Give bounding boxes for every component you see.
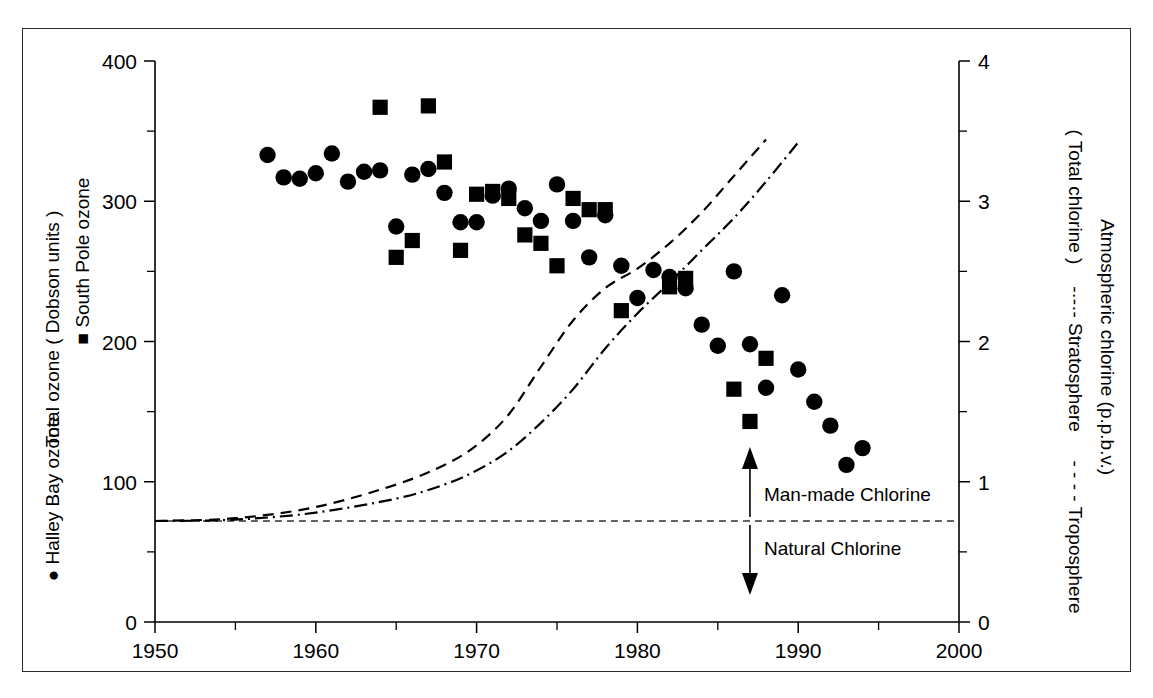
halley-bay-ozone-point xyxy=(340,173,356,189)
left-axis-title: Total ozone ( Dobson units ) xyxy=(42,211,63,448)
halley-bay-ozone-point xyxy=(324,145,340,161)
south-pole-ozone-point xyxy=(405,233,420,248)
south-pole-ozone-point xyxy=(533,236,548,251)
right-axis-title: Atmospheric chlorine (p.p.b.v.) xyxy=(1097,219,1118,475)
halley-bay-ozone-point xyxy=(372,162,388,178)
halley-bay-ozone-point xyxy=(613,258,629,274)
halley-bay-ozone-point xyxy=(758,380,774,396)
halley-bay-ozone-point xyxy=(275,169,291,185)
south-pole-ozone-point xyxy=(678,271,693,286)
natural-chlorine-label: Natural Chlorine xyxy=(764,538,901,559)
figure-frame: 0100200300400012341950196019701980199020… xyxy=(22,28,1131,672)
troposphere-legend: - - - - Troposphere xyxy=(1065,460,1086,613)
south-pole-ozone-point xyxy=(373,100,388,115)
x-axis-tick-label: 2000 xyxy=(936,639,983,662)
halley-bay-ozone-point xyxy=(694,316,710,332)
halley-bay-ozone-point xyxy=(549,176,565,192)
halley-bay-ozone-point xyxy=(726,263,742,279)
halley-bay-ozone-point xyxy=(806,394,822,410)
south-pole-ozone-point xyxy=(389,250,404,265)
man-made-arrow-head xyxy=(742,447,758,469)
halley-bay-legend: ● Halley Bay ozone xyxy=(42,417,63,582)
south-pole-ozone-point xyxy=(742,414,757,429)
halley-bay-ozone-point xyxy=(452,214,468,230)
halley-bay-ozone-point xyxy=(790,361,806,377)
right-axis-tick-label: 4 xyxy=(978,50,990,73)
south-pole-ozone-point xyxy=(565,191,580,206)
south-pole-ozone-point xyxy=(582,202,597,217)
left-axis-tick-label: 0 xyxy=(125,611,137,634)
right-axis-tick-label: 3 xyxy=(978,190,990,213)
total-chlorine-sublabel: ( Total chlorine ) xyxy=(1065,130,1086,265)
troposphere-curve xyxy=(155,140,766,521)
halley-bay-ozone-point xyxy=(468,214,484,230)
x-axis-tick-label: 1960 xyxy=(292,639,339,662)
south-pole-ozone-point xyxy=(469,187,484,202)
halley-bay-ozone-point xyxy=(565,213,581,229)
halley-bay-ozone-point xyxy=(822,417,838,433)
left-axis-tick-label: 300 xyxy=(102,190,137,213)
x-axis-tick-label: 1990 xyxy=(775,639,822,662)
halley-bay-ozone-point xyxy=(420,161,436,177)
south-pole-ozone-point xyxy=(549,258,564,273)
south-pole-ozone-point xyxy=(437,154,452,169)
south-pole-ozone-point xyxy=(421,98,436,113)
south-pole-ozone-point xyxy=(662,279,677,294)
stratosphere-legend: -·-·- Stratosphere xyxy=(1065,286,1086,432)
south-pole-ozone-point xyxy=(485,184,500,199)
halley-bay-ozone-point xyxy=(404,166,420,182)
x-axis-tick-label: 1950 xyxy=(132,639,179,662)
x-axis-tick-label: 1970 xyxy=(453,639,500,662)
right-axis-tick-label: 1 xyxy=(978,471,990,494)
halley-bay-ozone-point xyxy=(710,338,726,354)
halley-bay-ozone-point xyxy=(854,440,870,456)
left-axis-tick-label: 100 xyxy=(102,471,137,494)
halley-bay-ozone-point xyxy=(629,290,645,306)
south-pole-ozone-point xyxy=(501,191,516,206)
man-made-chlorine-label: Man-made Chlorine xyxy=(764,484,931,505)
x-axis-tick-label: 1980 xyxy=(614,639,661,662)
south-pole-ozone-point xyxy=(453,243,468,258)
right-axis-tick-label: 0 xyxy=(978,611,990,634)
left-axis-tick-label: 200 xyxy=(102,331,137,354)
south-pole-ozone-point xyxy=(726,382,741,397)
south-pole-ozone-point xyxy=(598,202,613,217)
halley-bay-ozone-point xyxy=(388,218,404,234)
halley-bay-ozone-point xyxy=(517,200,533,216)
halley-bay-ozone-point xyxy=(292,171,308,187)
halley-bay-ozone-point xyxy=(742,336,758,352)
south-pole-legend: ■ South Pole ozone xyxy=(72,178,93,345)
halley-bay-ozone-point xyxy=(356,164,372,180)
south-pole-ozone-point xyxy=(614,303,629,318)
halley-bay-ozone-point xyxy=(774,287,790,303)
halley-bay-ozone-point xyxy=(533,213,549,229)
natural-arrow-head xyxy=(742,573,758,595)
right-axis-tick-label: 2 xyxy=(978,331,990,354)
halley-bay-ozone-point xyxy=(645,262,661,278)
left-axis-tick-label: 400 xyxy=(102,50,137,73)
halley-bay-ozone-point xyxy=(308,165,324,181)
ozone-chlorine-chart: 0100200300400012341950196019701980199020… xyxy=(23,29,1129,670)
halley-bay-ozone-point xyxy=(436,185,452,201)
south-pole-ozone-point xyxy=(517,227,532,242)
halley-bay-ozone-point xyxy=(259,147,275,163)
halley-bay-ozone-point xyxy=(838,457,854,473)
south-pole-ozone-point xyxy=(758,351,773,366)
halley-bay-ozone-point xyxy=(581,249,597,265)
